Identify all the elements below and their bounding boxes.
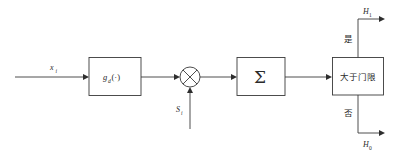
threshold-decision-label: 大于门限 xyxy=(340,72,376,82)
output-h1-subscript: 1 xyxy=(369,12,372,18)
input-signal-label-subscript: i xyxy=(56,68,58,74)
reference-signal-label: S xyxy=(176,105,180,114)
arrowhead-into-decision xyxy=(326,74,332,80)
arrowhead-output-h1 xyxy=(379,16,385,22)
summation-symbol: Σ xyxy=(254,67,266,87)
nonlinearity-label-argument: (·) xyxy=(112,72,121,82)
arrowhead-reference-into-multiplier xyxy=(187,87,193,93)
branch-no-label: 否 xyxy=(344,108,353,118)
branch-yes-label: 是 xyxy=(344,34,353,44)
nonlinearity-label-base: g xyxy=(103,72,107,82)
arrowhead-output-h0 xyxy=(379,130,385,136)
output-h0-subscript: 0 xyxy=(369,145,372,151)
diagram-canvas: x i g d (·) S i Σ 大于门限 是 H 1 否 H 0 xyxy=(0,0,398,154)
arrowhead-into-summation xyxy=(231,74,237,80)
block-diagram-container: x i g d (·) S i Σ 大于门限 是 H 1 否 H 0 xyxy=(0,0,398,154)
arrowhead-into-multiplier xyxy=(174,74,180,80)
input-signal-label: x xyxy=(49,63,54,72)
reference-signal-label-subscript: i xyxy=(181,110,183,116)
arrowhead-into-nonlinearity xyxy=(83,74,89,80)
